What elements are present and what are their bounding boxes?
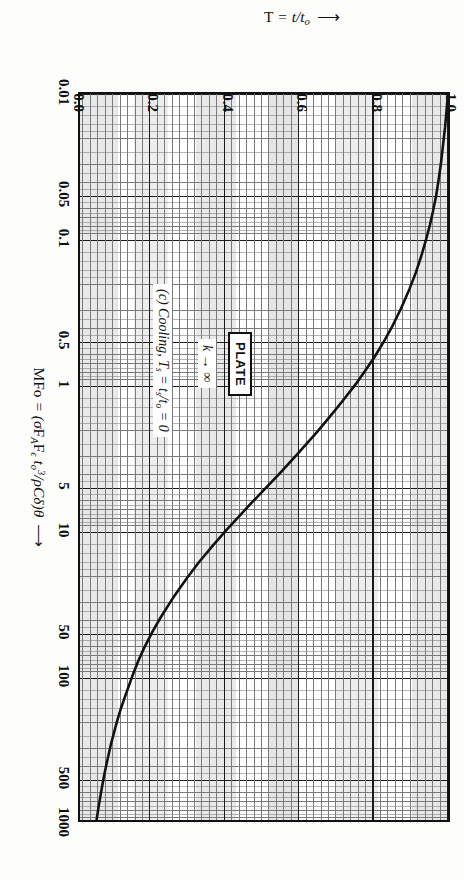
y-tick-label: 0.4 bbox=[218, 78, 235, 112]
case-annotation: (c) Cooling, Ts = ts/to = 0 bbox=[153, 284, 172, 437]
x-tick-label: 50 bbox=[55, 625, 72, 640]
x-tick-label: 1 bbox=[55, 380, 72, 388]
x-axis-label: MFo = (σFAFϵ to3/ρCδ)θ ⟶ bbox=[29, 92, 48, 822]
x-tick-label: 0.1 bbox=[55, 229, 72, 248]
plot-area: PLATE k → ∞ (c) Cooling, Ts = ts/to = 0 bbox=[78, 92, 450, 822]
x-tick-label: 5 bbox=[55, 482, 72, 490]
figure: PLATE k → ∞ (c) Cooling, Ts = ts/to = 0 … bbox=[0, 0, 464, 880]
data-curve bbox=[78, 94, 448, 820]
k-infinity-annotation: k → ∞ bbox=[198, 339, 216, 388]
x-tick-label: 0.5 bbox=[55, 331, 72, 350]
x-tick-label: 1000 bbox=[55, 807, 72, 837]
x-tick-label: 100 bbox=[55, 665, 72, 688]
rotated-figure-wrapper: PLATE k → ∞ (c) Cooling, Ts = ts/to = 0 … bbox=[0, 0, 464, 880]
y-tick-label: 0.8 bbox=[367, 78, 384, 112]
y-tick-label: 0.6 bbox=[293, 78, 310, 112]
plate-label-box: PLATE bbox=[228, 332, 252, 396]
y-axis-label: T = t/to ⟶ bbox=[264, 8, 339, 27]
y-tick-label: 0.2 bbox=[144, 78, 161, 112]
y-tick-label: 0.0 bbox=[70, 78, 87, 112]
y-tick-label: 1.0 bbox=[442, 78, 459, 112]
x-tick-label: 10 bbox=[55, 523, 72, 538]
x-tick-label: 0.05 bbox=[55, 181, 72, 207]
x-tick-label: 500 bbox=[55, 767, 72, 790]
